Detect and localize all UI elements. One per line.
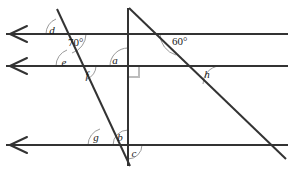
angle-label-b: b xyxy=(117,131,123,143)
geometry-canvas: d 70° e f a 60° h g b c xyxy=(0,0,291,171)
angle-label-g: g xyxy=(93,131,99,143)
angle-label-70: 70° xyxy=(68,36,83,48)
angle-label-60: 60° xyxy=(172,35,187,47)
angle-label-c: c xyxy=(132,147,137,159)
angle-label-d: d xyxy=(49,24,55,36)
geometry-figure: d 70° e f a 60° h g b c xyxy=(0,0,291,171)
angle-label-a: a xyxy=(112,54,118,66)
angle-label-h: h xyxy=(204,68,210,80)
angle-label-e: e xyxy=(62,56,67,68)
